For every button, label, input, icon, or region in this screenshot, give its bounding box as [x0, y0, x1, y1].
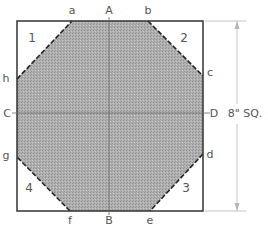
vertex-label-b: b	[145, 4, 152, 17]
axis-label-A: A	[105, 4, 113, 17]
dimension-label: 8" SQ.	[228, 107, 263, 120]
vertex-label-c: c	[207, 66, 213, 79]
octagon-layout-diagram: abcdefghABCD12348" SQ.	[0, 0, 268, 228]
corner-number-4: 4	[25, 181, 33, 195]
vertex-label-f: f	[68, 214, 73, 227]
vertex-label-g: g	[3, 149, 10, 162]
axis-label-C: C	[3, 107, 11, 120]
vertex-label-a: a	[69, 4, 76, 17]
vertex-label-h: h	[3, 72, 10, 85]
corner-number-1: 1	[28, 31, 36, 45]
axis-label-B: B	[105, 214, 113, 227]
axis-label-D: D	[210, 107, 218, 120]
arrowhead-down-icon	[235, 203, 240, 211]
vertex-label-e: e	[147, 214, 154, 227]
arrowhead-up-icon	[235, 21, 240, 29]
octagon-shape	[17, 21, 203, 211]
vertex-label-d: d	[207, 148, 214, 161]
corner-number-3: 3	[182, 181, 190, 195]
corner-number-2: 2	[180, 31, 188, 45]
